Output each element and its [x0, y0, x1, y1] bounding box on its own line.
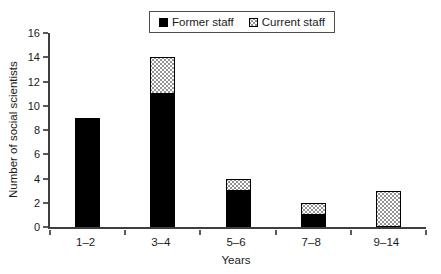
- y-tick-label: 12: [6, 76, 40, 88]
- legend-item-former-staff: Former staff: [159, 16, 234, 28]
- x-tick-mark: [124, 230, 126, 235]
- y-tick-label: 8: [6, 124, 40, 136]
- bar-segment-former-staff: [226, 191, 251, 227]
- former-staff-swatch-icon: [159, 18, 168, 27]
- y-tick-mark: [43, 129, 48, 131]
- legend-label-former-staff: Former staff: [172, 16, 234, 28]
- bar-chart-figure: Former staff Current staff Number of soc…: [0, 0, 441, 274]
- bar-segment-former-staff: [301, 215, 326, 227]
- bar-segment-former-staff: [150, 94, 175, 227]
- y-tick-label: 4: [6, 173, 40, 185]
- y-tick-label: 0: [6, 221, 40, 233]
- y-tick-label: 6: [6, 148, 40, 160]
- y-tick-label: 16: [6, 27, 40, 39]
- y-tick-label: 14: [6, 51, 40, 63]
- current-staff-swatch-icon: [249, 18, 258, 27]
- x-tick-label: 7–8: [302, 236, 321, 248]
- bar-segment-former-staff: [75, 118, 100, 227]
- x-tick-mark: [425, 230, 427, 235]
- x-tick-mark: [49, 230, 51, 235]
- y-tick-mark: [43, 81, 48, 83]
- y-tick-mark: [43, 178, 48, 180]
- y-tick-mark: [43, 202, 48, 204]
- x-tick-mark: [275, 230, 277, 235]
- x-tick-mark: [199, 230, 201, 235]
- x-tick-label: 9–14: [374, 236, 400, 248]
- y-tick-label: 10: [6, 100, 40, 112]
- bar-segment-current-staff: [150, 57, 175, 93]
- y-tick-mark: [43, 32, 48, 34]
- legend-item-current-staff: Current staff: [249, 16, 325, 28]
- plot-area: 0246810121416: [48, 33, 426, 229]
- y-tick-mark: [43, 153, 48, 155]
- legend-label-current-staff: Current staff: [262, 16, 325, 28]
- x-axis-category-labels: 1–23–45–67–89–14: [48, 236, 424, 250]
- chart-legend: Former staff Current staff: [149, 11, 335, 33]
- x-tick-label: 5–6: [226, 236, 245, 248]
- y-tick-mark: [43, 105, 48, 107]
- x-tick-label: 1–2: [76, 236, 95, 248]
- bar-segment-current-staff: [301, 203, 326, 215]
- x-tick-label: 3–4: [151, 236, 170, 248]
- y-tick-mark: [43, 226, 48, 228]
- bar-segment-current-staff: [226, 179, 251, 191]
- x-tick-mark: [350, 230, 352, 235]
- bar-segment-current-staff: [376, 191, 401, 227]
- y-tick-mark: [43, 56, 48, 58]
- x-axis-title: Years: [48, 254, 424, 266]
- y-tick-label: 2: [6, 197, 40, 209]
